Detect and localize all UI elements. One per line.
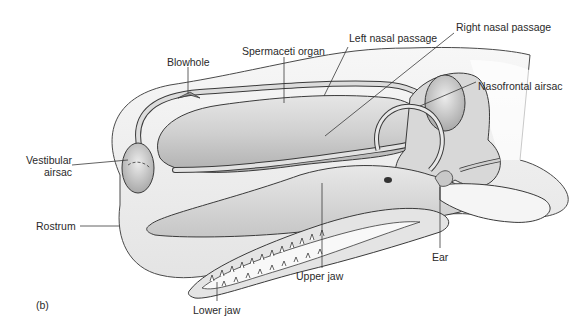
- label-upper-jaw: Upper jaw: [296, 270, 343, 282]
- nasofrontal-airsac-shape: [425, 75, 465, 131]
- anatomy-diagram: Blowhole Spermaceti organ Left nasal pas…: [0, 0, 574, 324]
- label-right-nasal-passage: Right nasal passage: [456, 21, 551, 33]
- label-left-nasal-passage: Left nasal passage: [349, 32, 437, 44]
- label-rostrum: Rostrum: [36, 220, 76, 232]
- label-vestibular-line1: Vestibular: [16, 154, 72, 166]
- label-lower-jaw: Lower jaw: [193, 304, 240, 316]
- eye: [384, 177, 392, 183]
- label-spermaceti-organ: Spermaceti organ: [242, 45, 325, 57]
- label-ear: Ear: [432, 251, 448, 263]
- label-nasofrontal-airsac: Nasofrontal airsac: [478, 80, 563, 92]
- label-blowhole: Blowhole: [167, 56, 210, 68]
- label-vestibular-airsac: Vestibular airsac: [16, 154, 72, 178]
- panel-label: (b): [36, 299, 49, 311]
- vestibular-airsac-shape: [122, 143, 154, 193]
- label-vestibular-line2: airsac: [16, 166, 72, 178]
